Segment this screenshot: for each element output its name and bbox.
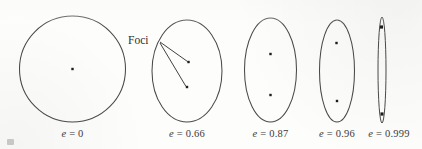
focus-dot <box>71 68 73 70</box>
caption-value-0: 0 <box>78 128 83 139</box>
ellipse-outline-3 <box>320 20 355 122</box>
ellipse-outline-2 <box>245 18 297 122</box>
caption-value-2: 0.87 <box>269 128 288 139</box>
focus-dot <box>269 53 271 55</box>
focus-dot <box>380 25 383 28</box>
ellipse-caption-0: e = 0 <box>61 128 83 139</box>
focus-dot <box>335 42 337 44</box>
ellipse-group-1: e = 0.66 <box>152 20 222 139</box>
scan-smudge-mark <box>7 139 14 145</box>
ellipse-outline-4 <box>378 17 386 123</box>
ellipse-caption-2: e = 0.87 <box>253 128 289 139</box>
ellipse-caption-4: e = 0.999 <box>368 128 409 139</box>
ellipse-group-2: e = 0.87 <box>245 18 297 139</box>
ellipse-group-3: e = 0.96 <box>319 20 355 139</box>
focus-dot <box>381 112 384 115</box>
caption-value-4: 0.999 <box>385 128 410 139</box>
caption-value-3: 0.96 <box>336 128 355 139</box>
foci-leader-line-lower <box>160 43 186 87</box>
foci-label: Foci <box>128 34 148 46</box>
ellipse-eccentricity-figure: e = 0 e = 0.66 e = 0.87 <box>0 0 422 149</box>
ellipse-caption-3: e = 0.96 <box>319 128 355 139</box>
ellipse-caption-1: e = 0.66 <box>169 128 205 139</box>
figure-canvas: e = 0 e = 0.66 e = 0.87 <box>0 0 422 149</box>
focus-dot <box>269 94 271 96</box>
ellipse-group-4: e = 0.999 <box>368 17 409 139</box>
ellipse-outline-1 <box>152 20 222 122</box>
focus-dot <box>336 100 338 102</box>
ellipse-group-0: e = 0 <box>20 16 126 139</box>
foci-leader-line-upper <box>160 42 188 62</box>
caption-value-1: 0.66 <box>186 128 205 139</box>
